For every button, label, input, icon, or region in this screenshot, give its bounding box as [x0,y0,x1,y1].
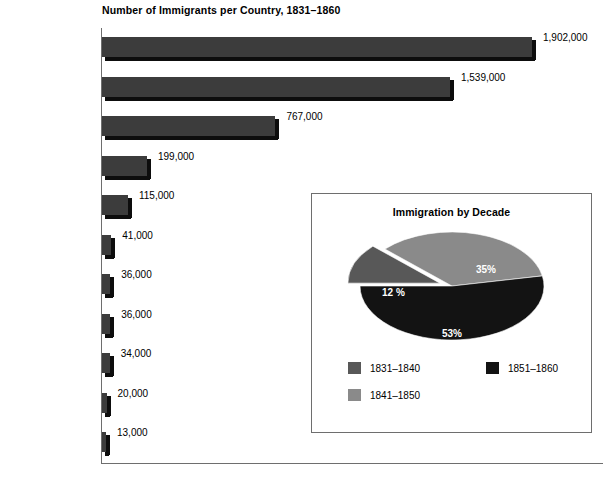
bar [102,353,110,373]
bar-face [102,353,110,373]
bar-bevel-right [110,277,114,297]
bar [102,156,147,176]
bar-bevel-right [110,317,114,337]
bar-bevel-right [128,198,132,218]
bar-bevel-bottom [105,97,453,101]
bar-face [102,274,110,294]
bar-bevel-right [110,356,114,376]
bar [102,37,532,57]
pie-chart-graphic: 12 % 35% 53% [324,224,580,354]
legend-swatch [486,362,499,374]
pie-chart-title: Immigration by Decade [312,206,591,218]
legend-item: 1831–1840 [348,362,420,374]
bar-value-label: 34,000 [121,348,152,359]
bar-value-label: 36,000 [121,309,152,320]
immigration-chart-figure: Number of Immigrants per Country, 1831–1… [0,0,604,480]
bar-value-label: 1,539,000 [461,72,506,83]
legend-swatch [348,362,361,374]
bar-bevel-right [275,119,279,139]
legend-label: 1841–1850 [370,390,420,401]
bar [102,116,275,136]
bar-value-label: 199,000 [158,151,194,162]
bar [102,393,107,413]
pie-slice-label-1831-1840: 12 % [382,287,405,298]
x-axis-line [101,463,603,464]
bar-bevel-bottom [105,136,278,140]
legend-item: 1841–1850 [348,389,420,401]
bar-bevel-bottom [105,176,150,180]
legend-label: 1851–1860 [508,363,558,374]
bar-face [102,37,532,57]
legend-label: 1831–1840 [370,363,420,374]
bar [102,235,111,255]
bar-value-label: 20,000 [118,388,149,399]
bar-face [102,116,275,136]
bar-face [102,195,128,215]
bar-value-label: 36,000 [121,269,152,280]
bar-value-label: 767,000 [286,111,322,122]
bar-bevel-right [106,435,110,455]
pie-chart-inset-panel: Immigration by Decade 12 % 35% 53% 1831–… [311,193,592,433]
bar [102,77,450,97]
bar-face [102,156,147,176]
page-title: Number of Immigrants per Country, 1831–1… [102,4,341,16]
legend-swatch [348,389,361,401]
bar-value-label: 1,902,000 [543,32,588,43]
bar [102,195,128,215]
bar-value-label: 115,000 [139,190,174,201]
bar [102,274,110,294]
bar [102,314,110,334]
bar-value-label: 41,000 [122,230,153,241]
bar-face [102,314,110,334]
pie-slice-label-1851-1860: 53% [442,328,462,339]
bar-bevel-right [147,159,151,179]
bar-bevel-right [532,40,536,60]
bar-face [102,77,450,97]
bar-value-label: 13,000 [117,427,148,438]
bar-bevel-right [450,80,454,100]
bar-bevel-right [111,238,115,258]
legend-item: 1851–1860 [486,362,558,374]
bar-face [102,235,111,255]
bar [102,432,106,452]
bar-bevel-right [107,396,111,416]
bar-bevel-bottom [105,57,535,61]
pie-slice-label-1841-1850: 35% [476,264,496,275]
